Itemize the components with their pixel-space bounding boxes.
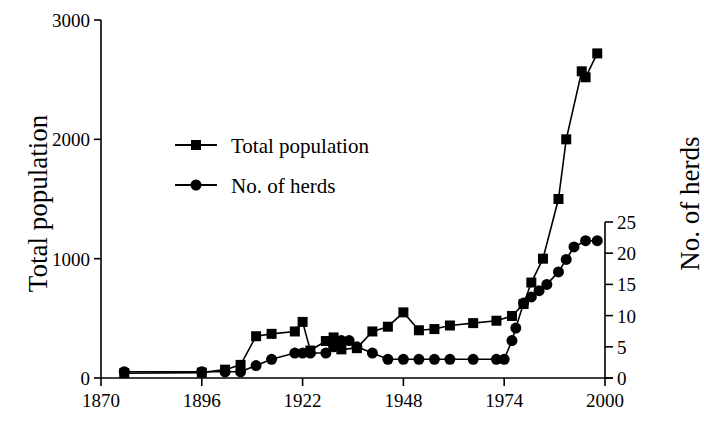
- x-axis-tick-label: 1922: [284, 390, 322, 411]
- series-marker: [196, 366, 207, 377]
- series-marker: [429, 354, 440, 365]
- series-marker: [592, 235, 603, 246]
- series-marker: [468, 354, 479, 365]
- x-axis-tick-label: 1974: [485, 390, 524, 411]
- series-marker: [298, 317, 308, 327]
- series-marker: [429, 324, 439, 334]
- series-marker: [235, 366, 246, 377]
- series-marker: [266, 354, 277, 365]
- y-axis-right-tick-label: 0: [617, 368, 627, 389]
- y-axis-right-tick-label: 15: [617, 274, 636, 295]
- series-marker: [581, 72, 591, 82]
- series-marker: [119, 366, 130, 377]
- series-marker: [553, 194, 563, 204]
- series-marker: [351, 341, 362, 352]
- series-marker: [367, 348, 378, 359]
- series-marker: [580, 235, 591, 246]
- series-marker: [305, 348, 316, 359]
- x-axis-tick-label: 1870: [82, 390, 120, 411]
- series-marker: [561, 134, 571, 144]
- series-marker: [491, 316, 501, 326]
- y-axis-left-tick-label: 3000: [52, 10, 90, 31]
- series-group: [119, 48, 603, 378]
- series-marker: [506, 335, 517, 346]
- series-marker: [510, 323, 521, 334]
- series-marker: [568, 241, 579, 252]
- series-marker: [383, 322, 393, 332]
- y-axis-right-tick-label: 20: [617, 243, 636, 264]
- legend-group: Total populationNo. of herds: [175, 134, 369, 198]
- series-marker: [444, 354, 455, 365]
- y-axis-right-tick-label: 5: [617, 337, 627, 358]
- y-axis-right-tick-label: 25: [617, 212, 636, 233]
- y-axis-left-tick-label: 1000: [52, 249, 90, 270]
- y-axis-right-tick-label: 10: [617, 306, 636, 327]
- series-marker: [553, 266, 564, 277]
- series-marker: [290, 326, 300, 336]
- series-marker: [592, 48, 602, 58]
- legend-marker-square: [191, 140, 201, 150]
- series-marker: [398, 307, 408, 317]
- series-marker: [220, 366, 231, 377]
- y-axis-left-tick-label: 0: [81, 368, 91, 389]
- x-axis-tick-label: 2000: [586, 390, 624, 411]
- series-marker: [445, 320, 455, 330]
- series-marker: [507, 311, 517, 321]
- legend-marker-circle: [191, 180, 202, 191]
- series-marker: [267, 329, 277, 339]
- series-marker: [398, 354, 409, 365]
- series-marker: [541, 279, 552, 290]
- y-axis-left-tick-label: 2000: [52, 129, 90, 150]
- series-marker: [251, 331, 261, 341]
- series-marker: [499, 354, 510, 365]
- series-marker: [413, 354, 424, 365]
- series-marker: [561, 254, 572, 265]
- series-marker: [367, 326, 377, 336]
- x-axis-tick-label: 1896: [183, 390, 221, 411]
- series-marker: [414, 325, 424, 335]
- axes-group: [101, 20, 613, 378]
- series-marker: [538, 254, 548, 264]
- series-marker: [382, 354, 393, 365]
- series-marker: [468, 318, 478, 328]
- series-marker: [251, 360, 262, 371]
- series-marker: [526, 278, 536, 288]
- series-line: [124, 53, 597, 373]
- legend-label: Total population: [231, 134, 369, 158]
- x-axis-tick-label: 1948: [384, 390, 422, 411]
- legend-label: No. of herds: [231, 174, 335, 198]
